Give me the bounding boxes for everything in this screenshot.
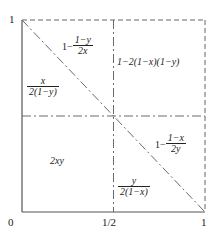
region-label-bottom-middle: y 2(1−x) [118,176,150,198]
x-axis-tick-0: 0 [8,217,14,228]
region-label-middle-right-lead: 1− [155,139,166,150]
region-label-bottom-left: 2xy [50,156,64,167]
region-label-top-left-denominator: 2x [73,46,93,56]
region-label-middle-right-denominator: 2y [166,144,186,154]
plot-canvas [0,0,222,240]
region-label-bottom-middle-fraction: y 2(1−x) [118,176,150,198]
x-axis-tick-half: 1/2 [102,217,116,228]
region-label-middle-left: x 2(1−y) [27,76,59,98]
y-axis-tick-1: 1 [9,14,15,25]
region-label-top-right: 1−2(1−x)(1−y) [117,57,179,68]
region-label-middle-left-fraction: x 2(1−y) [27,76,59,98]
region-label-top-left-fraction: 1−y 2x [73,35,93,57]
region-label-top-left-lead: 1− [62,41,73,52]
region-label-top-left: 1− 1−y 2x [62,35,93,57]
figure-unit-square-diagram: 1 0 1/2 1 1− 1−y 2x 1−2(1−x)(1−y) x 2(1−… [0,0,222,240]
x-axis-tick-1: 1 [201,217,207,228]
region-label-middle-right-fraction: 1−x 2y [166,133,186,155]
region-label-middle-right: 1− 1−x 2y [155,133,186,155]
region-label-middle-left-denominator: 2(1−y) [27,87,59,97]
region-label-bottom-middle-denominator: 2(1−x) [118,187,150,197]
